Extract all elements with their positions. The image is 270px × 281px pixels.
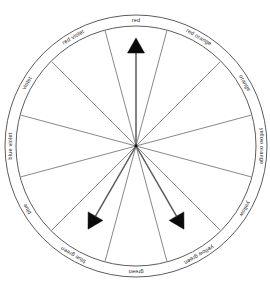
color-wheel-figure: redred orangeorangeyellow orangeyellowye… <box>0 0 270 281</box>
ring-label-blue: blue <box>21 203 32 216</box>
ring-label-yellow-orange: yellow orange <box>259 128 265 164</box>
ring-label-green: green <box>128 269 143 275</box>
color-wheel-svg: redred orangeorangeyellow orangeyellowye… <box>0 0 270 281</box>
wheel-center-point <box>135 145 138 148</box>
ring-label-blue-violet: blue violet <box>7 132 13 159</box>
ring-label-red: red <box>132 17 141 23</box>
